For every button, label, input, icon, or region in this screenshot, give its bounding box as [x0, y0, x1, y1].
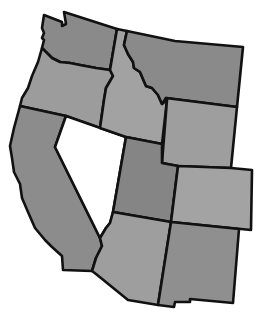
- state-colorado[interactable]: Colorado: [171, 166, 252, 230]
- western-us-map: Western United States Washington Oregon …: [0, 0, 260, 314]
- state-new-mexico[interactable]: New Mexico: [158, 222, 239, 307]
- state-wyoming[interactable]: Wyoming: [162, 98, 237, 168]
